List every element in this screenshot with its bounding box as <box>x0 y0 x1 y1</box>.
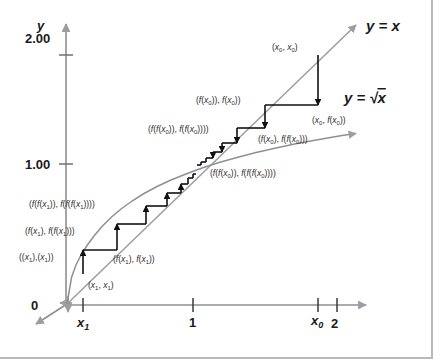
cobweb-diagram: y 2.00 1.00 0 x1 1 x0 2 y = x y =√x (x0,… <box>0 0 433 359</box>
x-tick-label-1: 1 <box>189 315 196 330</box>
label-x0-fx0: (x0, f(x0)) <box>312 115 346 126</box>
label-ffx1-fffx1: (f(f(x1)), f(f(f(x1)))) <box>29 199 95 210</box>
label-x1-x1: (x1, x1) <box>88 280 114 291</box>
origin-label: 0 <box>31 298 38 313</box>
cobweb-upper <box>197 55 318 165</box>
x-tick-label-x0: x0 <box>310 313 323 330</box>
figure-frame: y 2.00 1.00 0 x1 1 x0 2 y = x y =√x (x0,… <box>0 0 433 359</box>
label-fx1-ffx1: (f(x1), f(f(x1))) <box>25 226 75 237</box>
label-fx0-fx0: (f(x0)), f(x0)) <box>196 95 241 106</box>
y-tick-label-2: 2.00 <box>25 31 50 46</box>
sqrt-curve <box>67 134 356 305</box>
label-fx0-ffx0: (f(x0), f(f(x0))) <box>258 134 308 145</box>
x-tick-label-2: 2 <box>331 316 338 331</box>
sqrt-curve-label: y =√x <box>343 89 387 106</box>
label-x0-x0: (x0, x0) <box>272 42 298 53</box>
label-ffx0-fffx0: (f(f(x0)), f(f(f(x0)))) <box>210 168 276 179</box>
y-tick-label-1: 1.00 <box>25 157 50 172</box>
label-x1-x1-paren: ((x1),(x1)) <box>19 252 54 263</box>
label-ffx0-ffx0: (f(f(x0)), f(f(x0)))) <box>148 124 209 135</box>
x-tick-label-x1: x1 <box>76 315 89 332</box>
label-fx1-fx1: (f(x1), f(x1)) <box>113 254 155 265</box>
axis-diagonal-arrow <box>36 302 70 324</box>
identity-curve-label: y = x <box>365 17 400 34</box>
